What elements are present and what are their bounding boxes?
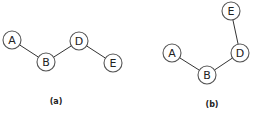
diagram-a: ABDE(a): [3, 31, 122, 106]
node-label: B: [203, 69, 211, 82]
node-a: A: [3, 31, 21, 49]
edge-b-d: [54, 46, 72, 57]
edge-a-b: [180, 58, 200, 70]
truncated-figure-caption: [3, 111, 153, 115]
node-d: D: [70, 32, 88, 50]
edge-d-e: [233, 20, 238, 44]
node-label: D: [236, 47, 244, 60]
node-label: A: [8, 34, 16, 47]
node-d: D: [231, 44, 249, 62]
node-label: E: [228, 5, 235, 18]
node-e: E: [222, 2, 240, 20]
edge-d-e: [87, 46, 106, 58]
node-b: B: [198, 66, 216, 84]
edge-a-b: [20, 45, 39, 57]
node-label: B: [42, 56, 50, 69]
node-label: D: [75, 35, 83, 48]
caption-b: (b): [205, 100, 218, 109]
node-label: A: [168, 47, 176, 60]
tree-diagrams: ABDE(a) ABDE(b): [0, 0, 259, 115]
caption-a: (a): [50, 97, 63, 106]
diagram-b: ABDE(b): [163, 2, 249, 109]
node-a: A: [163, 44, 181, 62]
node-b: B: [37, 53, 55, 71]
node-e: E: [104, 54, 122, 72]
edge-b-d: [214, 58, 232, 70]
node-label: E: [110, 57, 117, 70]
